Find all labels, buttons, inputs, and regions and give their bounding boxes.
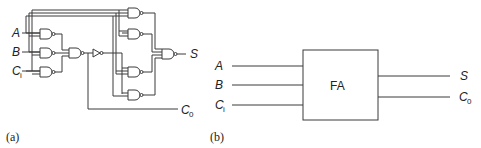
output-label-s: S [460, 69, 468, 83]
output-label-c0: C 0 [181, 103, 194, 119]
block-diagram: FA A B C i S C 0 (b) [210, 50, 472, 144]
nand-gate-sum [162, 49, 177, 59]
nand-gate-ab [40, 29, 55, 39]
nand-gate-s2 [128, 29, 143, 39]
svg-text:0: 0 [189, 110, 194, 119]
output-label-c0: C 0 [459, 90, 472, 106]
nand-gate-s4 [128, 90, 143, 100]
nand-gate-s3 [128, 67, 143, 77]
input-label-ci: C i [12, 64, 22, 80]
input-label-b: B [12, 45, 20, 59]
block-label: FA [330, 79, 345, 93]
nand-gate-carry [69, 48, 84, 58]
output-label-s: S [190, 47, 198, 61]
caption-b: (b) [210, 130, 224, 144]
nand-gate-ac [40, 67, 55, 77]
caption-a: (a) [6, 130, 19, 144]
svg-text:0: 0 [467, 97, 472, 106]
input-label-ci: C i [215, 98, 225, 114]
nand-gate-bc [40, 48, 55, 58]
gate-level-circuit: A B C i C 0 [6, 8, 198, 144]
nand-gate-s1 [128, 8, 143, 18]
input-label-b: B [215, 78, 223, 92]
svg-text:i: i [20, 71, 22, 80]
input-label-a: A [11, 26, 20, 40]
svg-text:i: i [223, 105, 225, 114]
full-adder-figure: A B C i C 0 [0, 0, 481, 148]
inverter-gate [93, 49, 100, 57]
input-label-a: A [214, 59, 223, 73]
